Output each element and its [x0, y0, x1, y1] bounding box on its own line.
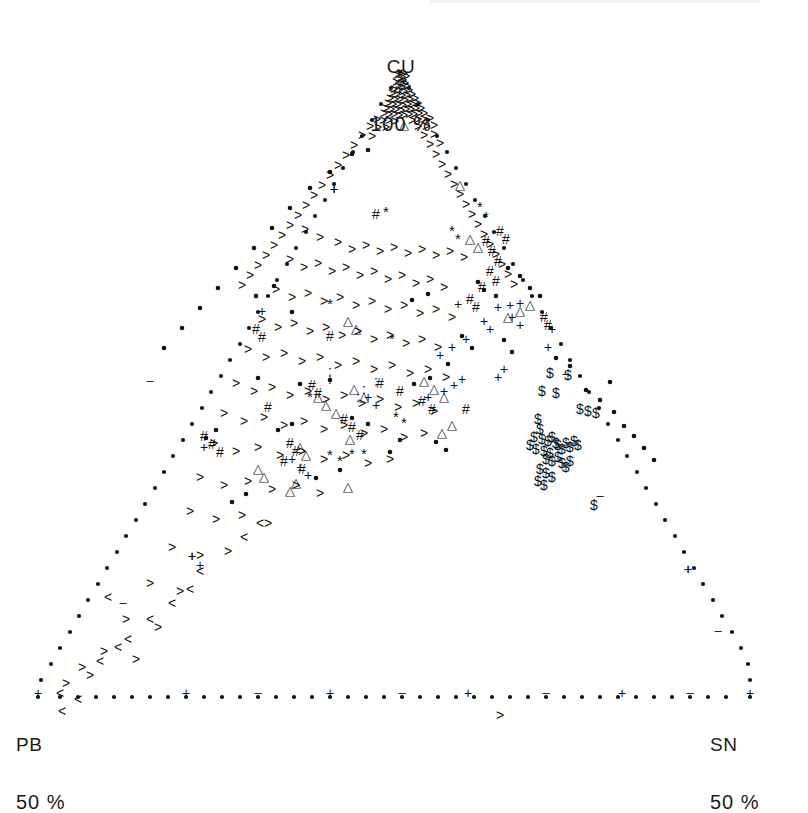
apex-name-cu: CU — [341, 56, 461, 77]
marker-dot — [642, 446, 647, 451]
marker-gt: > — [338, 327, 346, 343]
border-dot — [86, 598, 90, 602]
marker-colon: : — [374, 373, 378, 389]
marker-gt: > — [334, 234, 342, 250]
marker-dot — [470, 346, 475, 351]
marker-dot — [398, 438, 403, 443]
apex-percent-cu: 100 % — [341, 113, 461, 135]
border-dot — [673, 534, 677, 538]
marker-plus: + — [486, 321, 494, 337]
marker-triangle: △ — [437, 425, 447, 440]
marker-gt: > — [238, 277, 246, 293]
marker-triangle: △ — [419, 373, 429, 388]
marker-gt: > — [352, 353, 360, 369]
border-dot — [578, 374, 582, 378]
marker-dot — [598, 398, 603, 403]
border-dot — [663, 518, 667, 522]
marker-gt: > — [244, 473, 252, 489]
marker-gt: > — [220, 477, 228, 493]
border-dot — [711, 598, 715, 602]
marker-gt: > — [250, 383, 258, 399]
apex-percent-pb: 50 % — [16, 791, 126, 813]
marker-dollar: $ — [576, 401, 584, 417]
border-dot — [364, 695, 368, 699]
border-dot — [49, 662, 53, 666]
marker-dot — [270, 226, 275, 231]
marker-gt: > — [278, 227, 286, 243]
marker-hash: # — [372, 206, 380, 222]
marker-dot — [608, 380, 613, 385]
series-triangle: △△△△△△△△△△△△△△△△△△△△△△△△△△△ — [253, 117, 535, 498]
marker-dot — [428, 376, 433, 381]
marker-lt: < — [146, 611, 154, 627]
border-dot — [625, 454, 629, 458]
marker-gt: > — [316, 485, 324, 501]
border-dot — [39, 678, 43, 682]
marker-dot — [476, 280, 481, 285]
marker-star: * — [383, 203, 389, 220]
marker-dot — [554, 356, 559, 361]
marker-gt: > — [286, 387, 294, 403]
marker-gt: > — [398, 267, 406, 283]
marker-gt: > — [316, 349, 324, 365]
marker-triangle: △ — [455, 177, 465, 192]
marker-triangle: △ — [301, 447, 311, 462]
border-dot — [58, 646, 62, 650]
series-dollar: $$$$$$$$$$$$$$$$$$$$$$$$$$$$$$$$$$$$ — [526, 365, 600, 513]
marker-gt: > — [186, 503, 194, 519]
marker-gt: > — [300, 413, 308, 429]
marker-dollar: $ — [552, 385, 560, 401]
marker-gt: > — [254, 439, 262, 455]
border-accent-plus: + — [182, 685, 190, 701]
marker-hash: # — [326, 328, 334, 344]
border-dot — [310, 695, 314, 699]
marker-gt: > — [336, 289, 344, 305]
border-dot — [220, 695, 224, 699]
marker-dollar: $ — [548, 469, 556, 485]
marker-gt: > — [384, 271, 392, 287]
border-dot — [720, 614, 724, 618]
border-dot — [124, 534, 128, 538]
marker-hash: # — [396, 383, 404, 399]
marker-gt: > — [302, 197, 310, 213]
marker-star: * — [483, 208, 489, 225]
marker-gt: > — [220, 405, 228, 421]
border-dot — [181, 438, 185, 442]
marker-hash: # — [356, 427, 364, 443]
border-dot — [654, 502, 658, 506]
marker-dot — [198, 306, 203, 311]
marker-dot — [276, 428, 281, 433]
marker-dollar: $ — [538, 383, 546, 399]
marker-plus: + — [500, 361, 508, 377]
marker-gt: > — [280, 345, 288, 361]
marker-triangle: △ — [331, 405, 341, 420]
apex-label-sn: SN 50 % — [710, 698, 806, 813]
border-dot — [292, 695, 296, 699]
marker-gt: > — [370, 263, 378, 279]
marker-gt: > — [301, 221, 309, 237]
marker-dot — [510, 350, 515, 355]
marker-star: * — [455, 230, 461, 247]
border-dot — [559, 342, 563, 346]
marker-dot — [290, 310, 295, 315]
marker-gt: > — [240, 413, 248, 429]
marker-triangle: △ — [525, 297, 535, 312]
border-dot — [166, 695, 170, 699]
border-dot — [130, 695, 134, 699]
border-dot — [634, 695, 638, 699]
marker-dot — [244, 492, 249, 497]
marker-plus: + — [372, 397, 380, 413]
marker-star: * — [393, 408, 399, 425]
marker-dot — [180, 326, 185, 331]
border-dot — [670, 695, 674, 699]
marker-dot — [444, 448, 449, 453]
border-accent-dash: – — [542, 685, 550, 700]
marker-lt: < — [256, 515, 264, 531]
marker-star: * — [327, 446, 333, 463]
marker-lt: < — [196, 563, 204, 579]
border-dot — [202, 695, 206, 699]
marker-gt: > — [262, 349, 270, 365]
border-dot — [748, 678, 752, 682]
marker-dot — [216, 286, 221, 291]
marker-dot — [460, 334, 465, 339]
